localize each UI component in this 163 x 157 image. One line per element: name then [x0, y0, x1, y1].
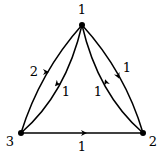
edge-3-to-1: 2 [21, 25, 82, 133]
edge-weight-label: 1 [78, 139, 86, 154]
edge-2-to-1: 1 [82, 25, 143, 133]
edge-1-to-2: 1 [82, 25, 143, 133]
node-label: 3 [6, 134, 14, 149]
node-2: 2 [140, 130, 157, 149]
node-label: 1 [78, 2, 86, 17]
edge-weight-label: 1 [62, 84, 70, 99]
node-label: 2 [149, 134, 157, 149]
graph-svg: 2 1 1 1 1 1 [0, 0, 163, 157]
edge-3-to-2: 1 [21, 133, 143, 154]
edge-1-to-3: 1 [21, 25, 82, 133]
node-3: 3 [6, 130, 24, 149]
node-1: 1 [78, 2, 86, 28]
edge-weight-label: 2 [30, 64, 38, 79]
graph-diagram: 2 1 1 1 1 1 [0, 0, 163, 157]
edge-weight-label: 1 [123, 60, 131, 75]
edge-weight-label: 1 [94, 84, 102, 99]
